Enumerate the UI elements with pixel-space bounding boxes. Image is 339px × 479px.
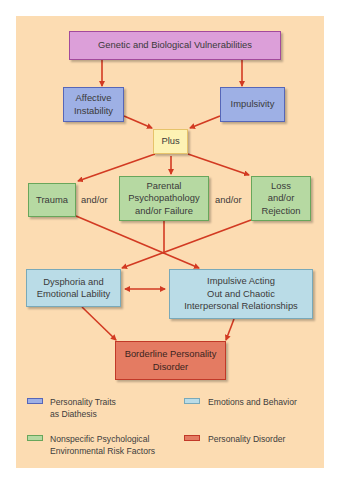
legend-swatch-emotions — [184, 398, 200, 404]
node-loss-rejection: Loss and/or Rejection — [251, 176, 311, 221]
arrow-trauma-impulsive — [76, 216, 199, 268]
arrow-plus-loss — [188, 154, 249, 175]
legend-label-disorder: Personality Disorder — [208, 433, 285, 445]
node-plus: Plus — [153, 129, 188, 154]
node-parental-psychopathology: Parental Psychopathology and/or Failure — [119, 176, 209, 221]
arrow-impulsive-borderline — [226, 319, 234, 340]
node-dysphoria: Dysphoria and Emotional Lability — [26, 269, 121, 307]
legend-label-traits: Personality Traits as Diathesis — [50, 396, 116, 420]
node-impulsive-acting-out: Impulsive Acting Out and Chaotic Interpe… — [169, 269, 313, 319]
connector-andor-2: and/or — [215, 194, 242, 205]
legend-label-risk-factors: Nonspecific Psychological Environmental … — [50, 433, 155, 457]
node-impulsivity: Impulsivity — [220, 87, 285, 122]
legend-swatch-traits — [27, 398, 43, 404]
legend-swatch-risk-factors — [27, 435, 43, 441]
node-affective-instability: Affective Instability — [63, 87, 124, 122]
arrow-impulsivity-plus — [190, 116, 220, 128]
legend-label-emotions: Emotions and Behavior — [208, 396, 297, 408]
arrow-dysphoria-borderline — [82, 307, 116, 340]
legend-swatch-disorder — [184, 435, 200, 441]
node-borderline-personality-disorder: Borderline Personality Disorder — [115, 341, 226, 380]
node-genetic-vulnerabilities: Genetic and Biological Vulnerabilities — [69, 31, 281, 60]
connector-andor-1: and/or — [81, 194, 108, 205]
arrow-affective-plus — [124, 116, 152, 128]
node-trauma: Trauma — [28, 183, 76, 217]
